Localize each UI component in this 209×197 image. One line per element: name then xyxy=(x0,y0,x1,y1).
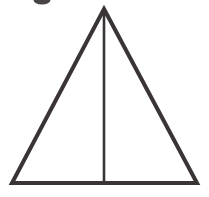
scan-artifact-blob-icon xyxy=(34,0,51,5)
figure-canvas: A large isosceles triangle drawn in dark… xyxy=(0,0,209,197)
triangle-figure-svg: A large isosceles triangle drawn in dark… xyxy=(0,0,209,197)
